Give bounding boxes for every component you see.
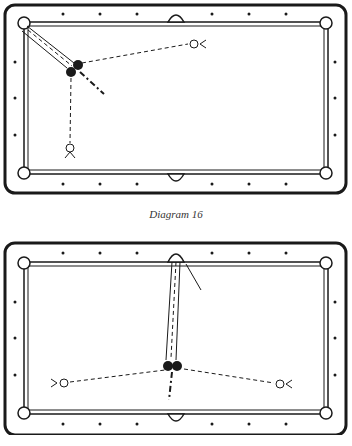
cue-ball (172, 361, 182, 371)
table-frame (5, 5, 346, 193)
shot-lines (22, 26, 188, 143)
diagram-caption: Diagram 16 (0, 208, 352, 220)
pocket-bottom-right (320, 407, 332, 419)
position-marker-right (190, 40, 198, 48)
position-marker-bottom (66, 144, 74, 152)
pocket-bottom-middle (168, 414, 184, 421)
position-marker-right (276, 380, 284, 388)
position-markers (65, 40, 206, 158)
balls (163, 361, 182, 371)
object-ball (163, 361, 173, 371)
shot-lines (70, 262, 274, 400)
pockets (18, 15, 332, 181)
diamonds (14, 13, 337, 186)
pocket-bottom-right (320, 167, 332, 179)
pool-table-diagram-16 (0, 0, 352, 195)
pocket-bottom-left (18, 407, 30, 419)
pocket-top-right (320, 257, 332, 269)
pool-table-diagram-17 (0, 230, 352, 435)
pocket-top-right (320, 17, 332, 29)
pocket-top-middle (168, 15, 184, 22)
cue-ball (66, 67, 76, 77)
pocket-bottom-left (18, 167, 30, 179)
position-marker-left (60, 379, 68, 387)
pocket-top-middle (168, 254, 184, 262)
pocket-bottom-middle (168, 174, 184, 181)
pocket-top-left (18, 257, 30, 269)
